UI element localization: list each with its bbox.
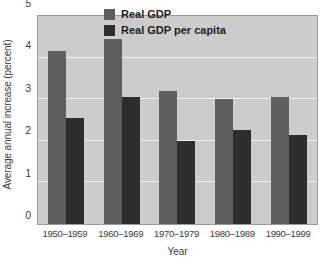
x-axis-tick-label: 1950–1959: [37, 228, 93, 239]
legend-entry: Real GDP: [104, 8, 226, 20]
bar: [66, 118, 84, 224]
plot-area: [37, 15, 318, 225]
x-axis-tick-label: 1990–1999: [260, 228, 316, 239]
bar-group: [150, 16, 206, 224]
bars-layer: [38, 16, 317, 224]
x-axis-tick-label: 1960–1969: [93, 228, 149, 239]
bar: [104, 39, 122, 224]
legend-label: Real GDP: [121, 8, 171, 20]
bar-chart-figure: Average annual increase (percent) 012345…: [0, 0, 325, 266]
legend-entry: Real GDP per capita: [104, 24, 226, 36]
x-axis-title: Year: [37, 246, 318, 257]
bar: [177, 141, 195, 224]
bar-group: [261, 16, 317, 224]
y-axis-tick-label: 2: [25, 126, 31, 136]
y-axis-tick-label: 1: [25, 169, 31, 179]
bar: [233, 130, 251, 224]
legend-swatch-icon: [104, 9, 115, 20]
bar: [48, 51, 66, 224]
y-axis-title-text: Average annual increase (percent): [3, 39, 14, 189]
y-axis-tick-label: 5: [25, 0, 31, 9]
bar: [289, 135, 307, 224]
y-axis-tick-labels: 012345: [16, 14, 34, 226]
bar: [122, 97, 140, 224]
bar: [271, 97, 289, 224]
bar: [159, 91, 177, 224]
legend: Real GDPReal GDP per capita: [104, 8, 226, 36]
y-axis-tick-label: 0: [25, 211, 31, 221]
bar-group: [38, 16, 94, 224]
y-axis-title: Average annual increase (percent): [0, 0, 16, 228]
x-axis-tick-label: 1970–1979: [149, 228, 205, 239]
bar-group: [94, 16, 150, 224]
legend-label: Real GDP per capita: [121, 24, 226, 36]
y-axis-tick-label: 4: [25, 41, 31, 51]
bar: [215, 99, 233, 224]
bar-group: [205, 16, 261, 224]
x-axis-tick-label: 1980–1989: [204, 228, 260, 239]
x-axis-tick-labels: 1950–19591960–19691970–19791980–19891990…: [37, 228, 318, 242]
legend-swatch-icon: [104, 25, 115, 36]
y-axis-tick-label: 3: [25, 84, 31, 94]
